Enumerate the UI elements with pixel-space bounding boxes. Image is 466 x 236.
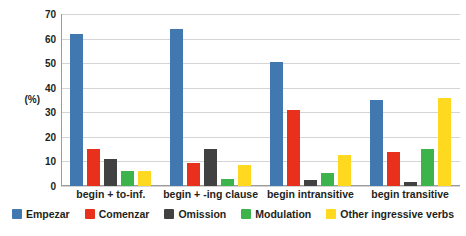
x-axis-category-label: begin + -ing clause [161,188,261,200]
legend-label: Modulation [255,208,311,220]
legend-swatch-icon [164,209,174,219]
bar [87,149,100,186]
bar [287,110,300,186]
bar [70,34,83,186]
bar [138,171,151,186]
y-axis-tick-label: 20 [45,131,56,142]
y-axis-tick-label: 40 [45,82,56,93]
bar [404,182,417,186]
bar [438,98,451,186]
legend-item[interactable]: Comenzar [85,208,150,220]
legend-swatch-icon [12,209,22,219]
x-axis-category-labels: begin + to-inf.begin + -ing clausebegin … [61,188,460,200]
bar-group [161,14,261,186]
bar [338,155,351,186]
plot-area: 706050403020100 [61,14,460,186]
y-axis-tick-label: 60 [45,33,56,44]
bar-group [261,14,361,186]
y-axis-tick-label: 70 [45,9,56,20]
bar-group [360,14,460,186]
bar [321,173,334,187]
legend-item[interactable]: Other ingressive verbs [326,208,454,220]
legend-label: Comenzar [99,208,150,220]
bar [304,180,317,186]
y-axis-tick-label: 10 [45,156,56,167]
legend-label: Empezar [26,208,70,220]
chart-legend: EmpezarComenzarOmissionModulationOther i… [0,208,466,220]
y-axis-tick-label: 0 [50,181,56,192]
x-axis-category-label: begin + to-inf. [61,188,161,200]
bar [421,149,434,186]
bar [387,152,400,186]
bar-chart: (%) 706050403020100 begin + to-inf.begin… [0,0,466,236]
bar [204,149,217,186]
y-axis-tick-label: 30 [45,107,56,118]
bar [370,100,383,186]
bar [238,165,251,186]
y-axis-tick-label: 50 [45,58,56,69]
legend-label: Omission [178,208,226,220]
legend-swatch-icon [326,209,336,219]
bar [270,62,283,186]
bar [121,171,134,186]
legend-label: Other ingressive verbs [340,208,454,220]
legend-item[interactable]: Modulation [241,208,311,220]
legend-item[interactable]: Empezar [12,208,70,220]
gridline [61,186,460,187]
bar [221,179,234,186]
x-axis-category-label: begin transitive [360,188,460,200]
bar-group [61,14,161,186]
bar [104,159,117,186]
legend-swatch-icon [241,209,251,219]
legend-swatch-icon [85,209,95,219]
y-axis-title: (%) [4,94,40,105]
bar [170,29,183,186]
bar [187,163,200,186]
bar-groups [61,14,460,186]
x-axis-category-label: begin intransitive [261,188,361,200]
legend-item[interactable]: Omission [164,208,226,220]
